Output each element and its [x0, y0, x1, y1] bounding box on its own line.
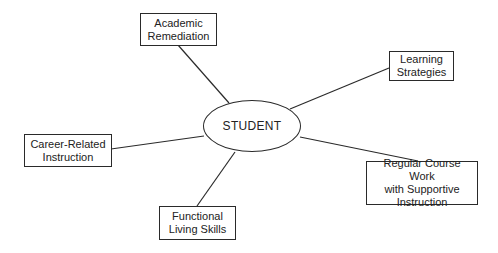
node-label-line: with Supportive	[370, 183, 474, 196]
node-label-line: Instruction	[30, 151, 105, 164]
node-academic-remediation: Academic Remediation	[140, 13, 217, 46]
link-learning-strategies	[290, 68, 389, 109]
node-label-line: Regular Course Work	[370, 157, 474, 183]
node-label-line: Instruction	[370, 196, 474, 209]
node-label-line: Strategies	[397, 66, 447, 79]
link-career-related-instruction	[111, 136, 204, 149]
node-label-line: Academic	[148, 17, 210, 30]
node-learning-strategies: Learning Strategies	[389, 51, 454, 81]
center-label: STUDENT	[223, 119, 282, 133]
node-label-line: Functional	[169, 210, 226, 223]
node-label-line: Living Skills	[169, 223, 226, 236]
node-regular-course-work: Regular Course Work with Supportive Inst…	[366, 161, 478, 205]
node-functional-living-skills: Functional Living Skills	[159, 206, 236, 240]
diagram-canvas: STUDENT Academic Remediation Learning St…	[0, 0, 498, 253]
node-label-line: Remediation	[148, 30, 210, 43]
node-label-line: Career-Related	[30, 138, 105, 151]
link-functional-living-skills	[197, 152, 235, 206]
node-label-line: Learning	[397, 53, 447, 66]
center-node-student: STUDENT	[203, 100, 301, 152]
node-career-related-instruction: Career-Related Instruction	[24, 134, 112, 167]
link-academic-remediation	[178, 45, 229, 103]
